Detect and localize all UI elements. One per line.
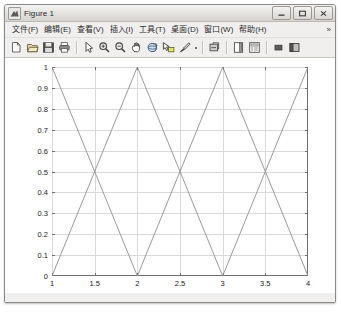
menu-help[interactable]: 帮助(H) — [236, 22, 269, 37]
window-bottom-rim — [5, 293, 335, 302]
minimize-button[interactable] — [272, 6, 291, 20]
menu-tools[interactable]: 工具(T) — [136, 22, 168, 37]
zoom-out-icon[interactable] — [113, 40, 128, 55]
ytick-label: 0.3 — [38, 209, 48, 218]
menu-insert[interactable]: 插入(I) — [107, 22, 137, 37]
xtick-label: 1.5 — [89, 279, 99, 288]
ytick-label: 0.5 — [38, 167, 48, 176]
plot-axes[interactable]: 00.10.20.30.40.50.60.70.80.9111.522.533.… — [52, 67, 308, 276]
ytick-label: 1 — [44, 63, 48, 72]
xtick-label: 2.5 — [175, 279, 185, 288]
brush-dropdown-icon[interactable] — [193, 40, 199, 55]
toolbar-separator-1 — [76, 41, 78, 54]
menu-desktop[interactable]: 桌面(D) — [168, 22, 201, 37]
legend-icon[interactable] — [247, 40, 262, 55]
print-figure-icon[interactable] — [57, 40, 72, 55]
xtick-label: 3 — [221, 279, 225, 288]
title-bar[interactable]: Figure 1 — [5, 5, 335, 22]
ytick-label: 0.9 — [38, 83, 48, 92]
menu-edit[interactable]: 编辑(E) — [41, 22, 74, 37]
ytick-label: 0.4 — [38, 188, 48, 197]
rotate-3d-icon[interactable] — [145, 40, 160, 55]
brush-icon[interactable] — [177, 40, 192, 55]
menu-overflow-chevron-icon[interactable]: » — [327, 22, 331, 37]
xtick-label: 4 — [306, 279, 310, 288]
figure-canvas[interactable]: 00.10.20.30.40.50.60.70.80.9111.522.533.… — [5, 58, 335, 293]
ytick-label: 0 — [44, 272, 48, 281]
new-figure-icon[interactable] — [9, 40, 24, 55]
xtick-label: 3.5 — [260, 279, 270, 288]
plot-graphics — [52, 67, 308, 276]
menu-window[interactable]: 窗口(W) — [201, 22, 236, 37]
zoom-in-icon[interactable] — [97, 40, 112, 55]
window-title: Figure 1 — [24, 9, 270, 18]
pan-icon[interactable] — [129, 40, 144, 55]
menu-file[interactable]: 文件(F) — [9, 22, 41, 37]
maximize-button[interactable] — [293, 6, 312, 20]
hide-plot-tools-icon[interactable] — [271, 40, 286, 55]
colorbar-icon[interactable] — [231, 40, 246, 55]
save-figure-icon[interactable] — [41, 40, 56, 55]
link-plot-icon[interactable] — [207, 40, 222, 55]
menu-bar: 文件(F) 编辑(E) 查看(V) 插入(I) 工具(T) 桌面(D) 窗口(W… — [5, 22, 335, 38]
edit-plot-icon[interactable] — [81, 40, 96, 55]
show-plot-tools-icon[interactable] — [287, 40, 302, 55]
ytick-label: 0.2 — [38, 230, 48, 239]
ytick-label: 0.7 — [38, 125, 48, 134]
data-cursor-icon[interactable] — [161, 40, 176, 55]
close-button[interactable] — [314, 6, 333, 20]
toolbar-separator-2 — [202, 41, 204, 54]
open-file-icon[interactable] — [25, 40, 40, 55]
ytick-label: 0.8 — [38, 104, 48, 113]
toolbar — [5, 38, 335, 58]
xtick-label: 1 — [50, 279, 54, 288]
figure-window: Figure 1 文件(F) 编辑(E) 查看(V) 插入( — [4, 4, 336, 303]
ytick-label: 0.6 — [38, 146, 48, 155]
toolbar-separator-3 — [226, 41, 228, 54]
ytick-label: 0.1 — [38, 251, 48, 260]
toolbar-separator-4 — [266, 41, 268, 54]
xtick-label: 2 — [135, 279, 139, 288]
menu-view[interactable]: 查看(V) — [74, 22, 107, 37]
desktop-background: Figure 1 文件(F) 编辑(E) 查看(V) 插入( — [0, 0, 341, 312]
matlab-figure-icon — [8, 7, 21, 20]
